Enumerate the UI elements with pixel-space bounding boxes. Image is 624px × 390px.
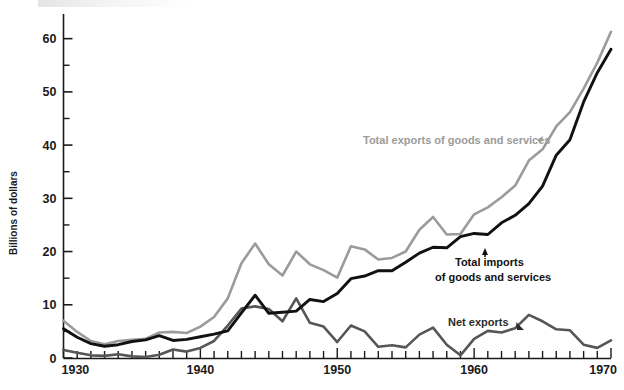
series-line-total-exports — [64, 32, 612, 344]
y-axis-tick-label: 20 — [43, 245, 57, 259]
annotation-net-exports-label: Net exports — [448, 316, 509, 328]
y-axis-tick-label: 50 — [43, 85, 57, 99]
y-axis-tick-label: 40 — [43, 139, 57, 153]
x-axis-tick-label: 1940 — [186, 363, 214, 377]
y-axis-major-ticks — [64, 39, 73, 358]
chart-figure: 0102030405060 19301940195019601970 Billi… — [0, 0, 624, 390]
annotation-total-imports-label-line1: Total imports — [455, 256, 524, 268]
series-layer — [64, 32, 612, 357]
series-line-total-imports — [64, 49, 612, 346]
x-axis-tick-label: 1950 — [323, 363, 351, 377]
y-axis-tick-labels: 0102030405060 — [43, 32, 57, 365]
y-axis-tick-label: 10 — [43, 298, 57, 312]
x-axis-tick-label: 1960 — [460, 363, 488, 377]
y-axis-title: Billions of dollars — [8, 171, 19, 255]
annotation-total-imports-label-line2: of goods and services — [435, 271, 551, 283]
y-axis-tick-label: 0 — [50, 352, 57, 366]
y-axis-tick-label: 60 — [43, 32, 57, 46]
x-axis-tick-labels: 19301940195019601970 — [62, 363, 618, 377]
x-axis-tick-label: 1970 — [589, 363, 617, 377]
y-axis-tick-label: 30 — [43, 192, 57, 206]
annotation-total-exports-label: Total exports of goods and services — [363, 134, 550, 146]
annotation-total-imports-arrow-icon — [482, 248, 488, 255]
x-axis-tick-label: 1930 — [62, 363, 90, 377]
